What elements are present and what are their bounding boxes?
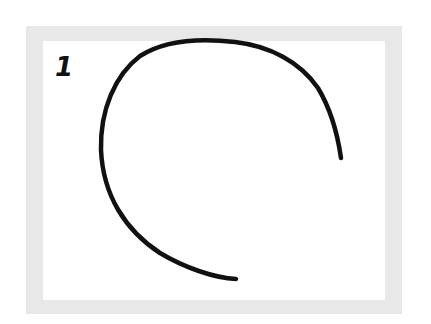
hand-drawn-arc	[0, 0, 431, 324]
